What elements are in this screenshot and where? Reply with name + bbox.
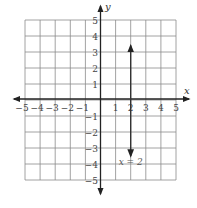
equation-label: x = 2 [119, 157, 143, 167]
y-tick-label: 4 [92, 32, 98, 42]
y-tick-label: 5 [92, 16, 98, 26]
x-tick-label: −5 [15, 103, 29, 113]
y-tick-label: 3 [92, 48, 98, 58]
y-tick-label: −5 [85, 176, 99, 186]
y-tick-labels: −5−4−3−2−112345 [85, 16, 99, 186]
x-tick-label: 1 [113, 103, 119, 113]
y-axis-label: y [104, 1, 111, 12]
x-tick-label: −4 [30, 103, 44, 113]
x-axis-label: x [184, 85, 190, 96]
coordinate-plane: x y −5−4−3−2−112345 −5−4−3−2−112345 x = … [0, 0, 197, 208]
y-tick-label: −1 [85, 112, 98, 122]
y-tick-label: 2 [92, 64, 98, 74]
x-tick-label: 5 [173, 103, 179, 113]
x-tick-label: −2 [61, 103, 74, 113]
y-tick-label: −2 [85, 128, 98, 138]
y-tick-label: 1 [92, 80, 98, 90]
x-tick-label: −3 [46, 103, 60, 113]
y-tick-label: −4 [85, 160, 99, 170]
x-tick-label: 3 [143, 103, 149, 113]
x-tick-label: 4 [158, 103, 164, 113]
y-tick-label: −3 [85, 144, 99, 154]
